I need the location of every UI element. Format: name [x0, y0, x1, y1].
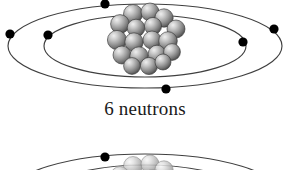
electron-inner-left [43, 30, 52, 39]
bottom-diagram-group [8, 152, 282, 170]
nucleus-cluster [107, 3, 185, 75]
electron-inner-top-partial [100, 152, 109, 161]
figure-caption: 6 neutrons [0, 98, 290, 120]
nucleus-cluster-partial [111, 155, 185, 170]
top-diagram-group [5, 0, 282, 94]
electron-outer-right [269, 24, 278, 33]
electron-outer-left [5, 29, 14, 38]
electron-inner-top [100, 0, 109, 9]
diagram-vector-layer [0, 0, 290, 170]
electron-inner-right [238, 37, 247, 46]
atomic-structure-figure: 6 neutrons [0, 0, 290, 170]
electron-outer-bottom [161, 84, 170, 93]
figure-canvas: 6 neutrons [0, 0, 290, 170]
